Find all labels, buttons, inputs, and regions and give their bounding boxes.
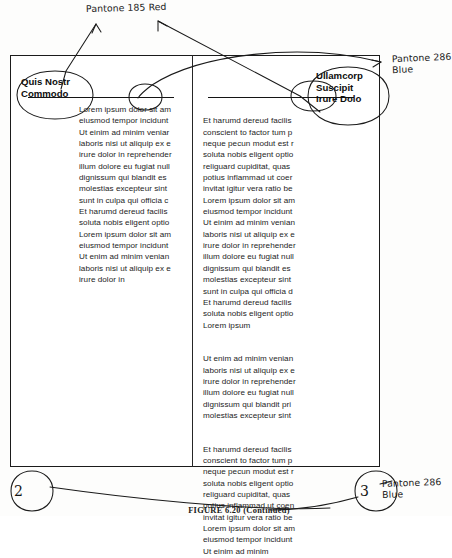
left-column-body: Lorem ipsum dolor sit am eiusmod tempor …	[79, 104, 191, 286]
proof-page-frame	[10, 55, 380, 467]
right-column-paragraph: Ut enim ad minim venian laboris nisi ut …	[203, 353, 319, 421]
column-divider	[192, 55, 193, 467]
left-column-headline: Quis Nostr Commodo	[21, 76, 70, 99]
annotation-pantone-286-blue-bottom: Pantone 286 Blue	[382, 476, 442, 500]
figure-caption: FIGURE 6.20 (Continued)	[134, 506, 344, 515]
right-column-paragraph: Et harumd dereud facilis conscient to fa…	[203, 115, 319, 331]
arrowhead-red-right	[158, 21, 167, 31]
annotation-pantone-185-red: Pantone 185 Red	[86, 1, 167, 14]
arrowhead-red-left	[92, 24, 101, 33]
right-column-headline: Ullamcorp Suscipit Irure Dolo	[316, 70, 363, 105]
right-column-body: Et harumd dereud facilis conscient to fa…	[203, 104, 319, 558]
annotation-pantone-286-blue-right: Pantone 286 Blue	[392, 51, 452, 75]
page-marker-3: 3	[360, 483, 369, 499]
right-column-paragraph: Et harumd dereud facilis conscient to fa…	[203, 444, 319, 557]
page-marker-2: 2	[14, 483, 23, 499]
